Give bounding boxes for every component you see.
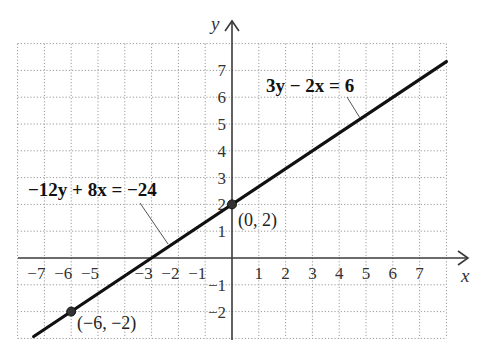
y-tick-label: 4 [218,142,227,161]
eq2-leader-line [140,203,168,244]
point-label-0-2: (0, 2) [238,210,277,231]
data-point [228,200,237,209]
x-tick-label: −1 [188,264,206,283]
y-tick-label: 5 [218,115,227,134]
y-tick-label: −2 [208,303,226,322]
x-tick-label: −5 [81,264,99,283]
x-tick-label: 2 [281,264,290,283]
x-tick-label: 6 [389,264,398,283]
x-tick-label: 4 [335,264,344,283]
equation-label-1: 3y − 2x = 6 [266,75,354,96]
x-tick-label: 3 [308,264,317,283]
y-tick-label: 3 [218,169,227,188]
x-tick-label: −7 [27,264,46,283]
x-tick-label: −6 [54,264,72,283]
point-label-neg6-neg2: (−6, −2) [77,313,136,334]
y-tick-label: 1 [218,222,227,241]
y-tick-label: 6 [218,88,227,107]
x-tick-label: 7 [415,264,424,283]
line-graph: −7−6−5−3−2−112345677654321−1−2 x y 3y − … [0,0,493,356]
x-tick-label: −2 [161,264,179,283]
x-tick-label: 1 [255,264,264,283]
x-axis-label: x [460,265,470,286]
data-point [67,307,76,316]
x-tick-label: 5 [362,264,371,283]
y-axis-label: y [209,13,220,34]
equation-label-2: −12y + 8x = −24 [28,179,157,200]
y-tick-label: −1 [208,276,226,295]
y-tick-label: 7 [218,61,227,80]
eq1-leader-line [347,97,360,118]
